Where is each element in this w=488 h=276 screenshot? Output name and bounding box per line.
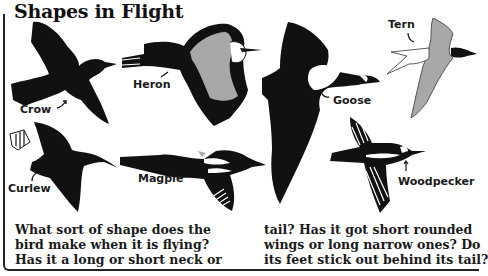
label-goose: Goose (333, 94, 371, 107)
arrow-icon (406, 32, 416, 44)
label-tern: Tern (388, 18, 415, 31)
curlew-silhouette (8, 122, 128, 212)
arrow-icon (160, 70, 170, 78)
label-heron: Heron (133, 78, 170, 91)
label-curlew: Curlew (8, 182, 51, 195)
tern-silhouette (385, 18, 480, 118)
arrow-icon (320, 90, 330, 100)
heron-silhouette (122, 18, 262, 128)
arrow-icon (30, 170, 40, 182)
label-magpie: Magpie (138, 172, 183, 185)
text-column-right: tail? Has it got short rounded wings or … (264, 222, 488, 267)
label-crow: Crow (20, 103, 51, 116)
text-column-left: What sort of shape does the bird make wh… (15, 222, 222, 267)
arrow-icon (56, 99, 68, 109)
arrow-icon (192, 170, 204, 180)
arrow-icon (402, 160, 410, 172)
label-woodpecker: Woodpecker (398, 175, 475, 188)
woodpecker-silhouette (330, 117, 440, 217)
